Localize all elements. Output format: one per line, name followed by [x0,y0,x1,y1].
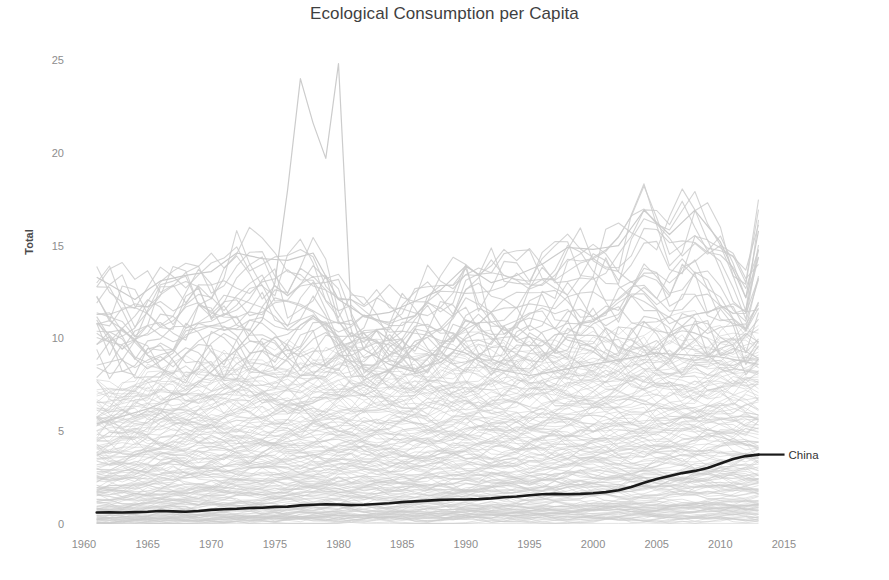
china-annotation-label: China [789,449,819,461]
x-tick-1990: 1990 [436,538,496,550]
x-tick-1970: 1970 [181,538,241,550]
x-tick-2015: 2015 [754,538,814,550]
x-tick-1995: 1995 [499,538,559,550]
x-tick-1960: 1960 [54,538,114,550]
x-tick-1980: 1980 [309,538,369,550]
background-country-line [97,184,759,337]
x-tick-1965: 1965 [118,538,178,550]
x-tick-2005: 2005 [627,538,687,550]
x-tick-2010: 2010 [690,538,750,550]
background-country-line [97,189,759,341]
background-series-lines [97,64,759,524]
plot-area [0,0,889,580]
chart-container: Ecological Consumption per Capita Total … [0,0,889,580]
x-tick-1985: 1985 [372,538,432,550]
x-tick-2000: 2000 [563,538,623,550]
x-tick-1975: 1975 [245,538,305,550]
